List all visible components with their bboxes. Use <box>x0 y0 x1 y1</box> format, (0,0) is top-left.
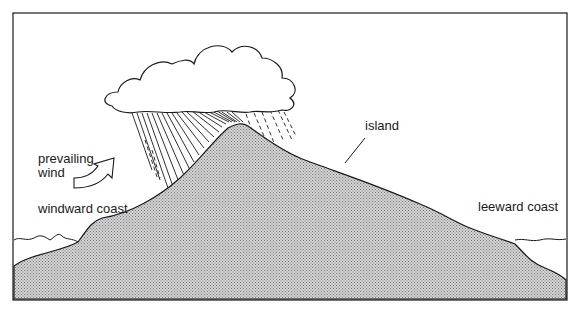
island-label: island <box>365 118 399 133</box>
windward-coast-label: windward coast <box>37 201 128 216</box>
prevailing-wind-label-line2: wind <box>37 165 65 180</box>
leeward-coast-label: leeward coast <box>478 199 559 214</box>
orographic-rainfall-diagram: prevailing wind windward coast island le… <box>0 0 579 311</box>
prevailing-wind-label-line1: prevailing <box>38 151 94 166</box>
